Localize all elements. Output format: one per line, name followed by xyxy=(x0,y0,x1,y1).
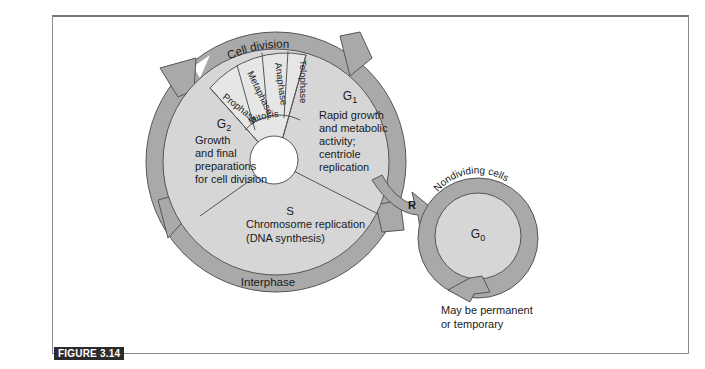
svg-text:preparations: preparations xyxy=(195,160,257,172)
g0-note-line-2: or temporary xyxy=(441,318,504,330)
cell-cycle-diagram: Cell division Interphase Mitosis Prophas… xyxy=(0,0,705,369)
svg-text:Rapid growth: Rapid growth xyxy=(319,109,384,121)
restriction-point-label: R xyxy=(408,199,416,211)
svg-text:and final: and final xyxy=(195,147,237,159)
svg-text:S: S xyxy=(286,205,294,217)
figure-label: FIGURE 3.14 xyxy=(54,347,124,360)
svg-text:replication: replication xyxy=(319,161,369,173)
svg-text:centriole: centriole xyxy=(319,148,361,160)
g0-note-line-1: May be permanent xyxy=(441,304,533,316)
svg-text:and metabolic: and metabolic xyxy=(319,122,388,134)
svg-text:activity;: activity; xyxy=(319,135,356,147)
interphase-label: Interphase xyxy=(241,276,295,288)
svg-text:(DNA synthesis): (DNA synthesis) xyxy=(246,232,325,244)
svg-text:Growth: Growth xyxy=(195,134,230,146)
telophase-label: Telophase xyxy=(298,60,309,103)
svg-text:Chromosome replication: Chromosome replication xyxy=(246,218,365,230)
svg-text:for cell division: for cell division xyxy=(195,173,267,185)
